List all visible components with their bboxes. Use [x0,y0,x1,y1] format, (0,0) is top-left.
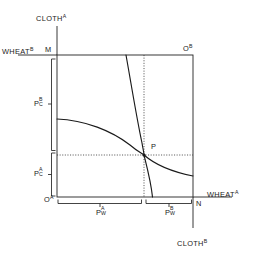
box-rectangle [57,55,193,197]
figure-canvas [0,0,253,257]
bracket-bottom-left [58,200,142,208]
point-label-p: P [151,143,156,150]
bracket-bottom-right [146,200,192,208]
edgeworth-box-figure: CLOTHA WHEATB M OB OA N WHEATA CLOTHB P … [0,0,253,257]
bracket-label-pwa: PAW [96,209,101,216]
bracket-label-pca: PAC [34,170,39,177]
corner-label-origin-b: OB [183,44,193,53]
bracket-left-upper [48,59,56,151]
corner-label-n: N [196,200,202,207]
indifference-curve-a [57,119,193,176]
corner-label-origin-a: OA [44,195,54,204]
axis-label-wheat-a: WHEATA [207,190,238,199]
equilibrium-point-p [142,153,145,156]
bracket-left-lower [48,153,56,196]
axis-label-wheat-b: WHEATB [2,47,33,56]
corner-label-m: M [45,46,52,53]
axis-label-cloth-b: CLOTHB [177,239,207,248]
indifference-curve-b [126,55,153,197]
axis-label-cloth-a: CLOTHA [36,14,66,23]
bracket-label-pwb: PBW [165,209,170,216]
bracket-label-pcb: PBC [34,100,39,107]
